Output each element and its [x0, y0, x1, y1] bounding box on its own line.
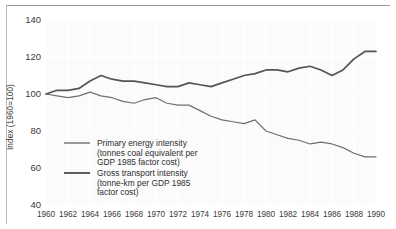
x-tick-label: 1972	[169, 210, 188, 219]
x-tick-label: 1978	[235, 210, 254, 219]
y-tick-label: 60	[30, 162, 41, 173]
y-tick-label: 100	[25, 88, 41, 99]
x-tick-label: 1980	[257, 210, 276, 219]
y-tick-label: 120	[25, 51, 41, 62]
line-chart: 406080100120140 196019621964196619681970…	[0, 0, 396, 229]
x-tick-label: 1968	[125, 210, 144, 219]
x-tick-label: 1986	[323, 210, 342, 219]
plot-background	[46, 20, 376, 205]
legend-label-0-line-2: GDP 1985 factor cost)	[97, 157, 180, 167]
x-tick-label: 1974	[191, 210, 210, 219]
y-tick-label: 40	[30, 199, 41, 210]
x-tick-label: 1976	[213, 210, 232, 219]
legend-label-0-line-0: Primary energy intensity	[97, 138, 188, 148]
chart-figure: 406080100120140 196019621964196619681970…	[0, 0, 396, 229]
legend-label-0-line-1: (tonnes coal equivalent per	[97, 148, 198, 158]
y-axis-title: Index (1960=100)	[5, 84, 15, 150]
x-tick-label: 1970	[147, 210, 166, 219]
y-tick-label: 140	[25, 14, 41, 25]
x-tick-label: 1988	[345, 210, 364, 219]
x-tick-label: 1982	[279, 210, 298, 219]
legend-label-1-line-2: factor cost)	[97, 187, 139, 197]
legend-label-1-line-1: (tonne-km per GDP 1985	[97, 178, 191, 188]
x-tick-label: 1962	[59, 210, 78, 219]
legend-label-1-line-0: Gross transport intensity	[97, 168, 189, 178]
x-tick-label: 1964	[81, 210, 100, 219]
x-tick-label: 1990	[367, 210, 386, 219]
x-tick-label: 1984	[301, 210, 320, 219]
x-axis-tick-labels: 1960196219641966196819701972197419761978…	[37, 210, 386, 219]
y-tick-label: 80	[30, 125, 41, 136]
x-tick-label: 1966	[103, 210, 122, 219]
y-axis-tick-labels: 406080100120140	[25, 14, 41, 210]
x-tick-label: 1960	[37, 210, 56, 219]
